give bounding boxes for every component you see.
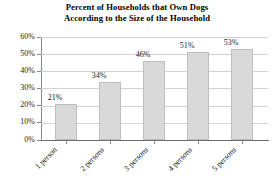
y-tick-label-20: 20% (3, 101, 35, 109)
y-tick-label-0: 0% (3, 136, 35, 144)
bar-value-5-persons: 53% (211, 39, 251, 47)
chart-title-line-1: Percent of Households that Own Dogs (0, 2, 274, 13)
x-tick-mark-4-persons (198, 141, 199, 144)
x-axis-line (41, 140, 269, 141)
bar-5-persons (231, 49, 253, 140)
x-tick-label-1-person: 1 person (34, 146, 59, 171)
bar-value-3-persons: 46% (123, 51, 163, 59)
chart-title-line-2: According to the Size of the Household (0, 13, 274, 24)
x-tick-label-3-persons: 3 persons (123, 146, 150, 173)
y-tick-label-60: 60% (3, 33, 35, 41)
bar-3-persons (143, 61, 165, 140)
bar-2-persons (99, 82, 121, 140)
y-tick-label-40: 40% (3, 67, 35, 75)
x-tick-mark-5-persons (242, 141, 243, 144)
y-tick-label-50: 50% (3, 50, 35, 58)
bar-value-1-person: 21% (35, 94, 75, 102)
y-axis-labels: 60% 50% 40% 30% 20% 10% 0% (0, 0, 35, 188)
bar-1-person (55, 104, 77, 140)
bar-chart: Percent of Households that Own Dogs Acco… (0, 0, 274, 188)
x-tick-label-4-persons: 4 persons (167, 146, 194, 173)
x-tick-mark-2-persons (110, 141, 111, 144)
bar-value-2-persons: 34% (79, 72, 119, 80)
chart-title: Percent of Households that Own Dogs Acco… (0, 2, 274, 23)
bar-value-4-persons: 51% (167, 42, 207, 50)
x-tick-mark-3-persons (154, 141, 155, 144)
y-tick-label-10: 10% (3, 118, 35, 126)
bar-4-persons (187, 52, 209, 140)
x-tick-label-5-persons: 5 persons (211, 146, 238, 173)
x-tick-label-2-persons: 2 persons (79, 146, 106, 173)
y-tick-label-30: 30% (3, 84, 35, 92)
x-tick-mark-1-person (66, 141, 67, 144)
